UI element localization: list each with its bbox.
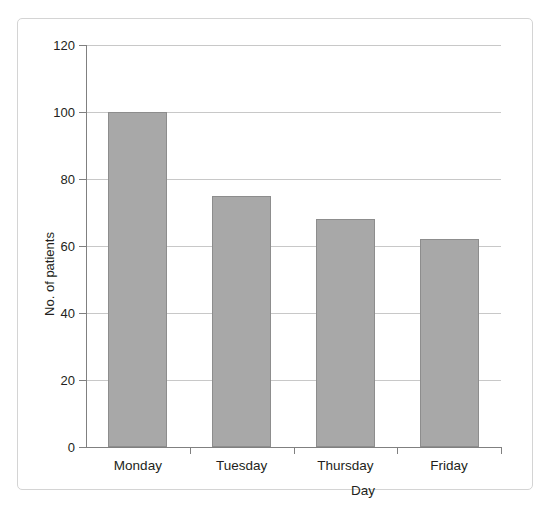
bar xyxy=(420,239,479,447)
x-tick-mark xyxy=(397,447,398,454)
y-tick-mark xyxy=(79,179,86,180)
bar xyxy=(212,196,271,447)
x-tick-mark xyxy=(294,447,295,454)
bar xyxy=(108,112,167,447)
y-axis-line xyxy=(86,45,87,448)
x-axis-title: Day xyxy=(351,483,375,498)
plot-area: 020406080100120 MondayTuesdayThursdayFri… xyxy=(86,45,501,447)
y-tick-mark xyxy=(79,447,86,448)
y-tick-mark xyxy=(79,112,86,113)
y-tick-label: 40 xyxy=(61,306,75,321)
bar xyxy=(316,219,375,447)
gridline xyxy=(86,45,501,46)
x-tick-label: Friday xyxy=(430,458,468,473)
y-tick-mark xyxy=(79,45,86,46)
x-tick-mark xyxy=(501,447,502,454)
y-tick-label: 80 xyxy=(61,172,75,187)
y-tick-mark xyxy=(79,380,86,381)
y-tick-label: 120 xyxy=(53,38,75,53)
x-tick-label: Thursday xyxy=(317,458,373,473)
y-tick-label: 100 xyxy=(53,105,75,120)
figure-frame: No. of patients 020406080100120 MondayTu… xyxy=(17,18,533,490)
x-tick-mark xyxy=(190,447,191,454)
y-tick-mark xyxy=(79,313,86,314)
y-tick-label: 60 xyxy=(61,239,75,254)
y-axis-title: No. of patients xyxy=(42,232,57,316)
y-tick-label: 0 xyxy=(68,440,75,455)
y-tick-label: 20 xyxy=(61,373,75,388)
x-tick-label: Tuesday xyxy=(216,458,267,473)
y-tick-mark xyxy=(79,246,86,247)
x-tick-label: Monday xyxy=(114,458,162,473)
